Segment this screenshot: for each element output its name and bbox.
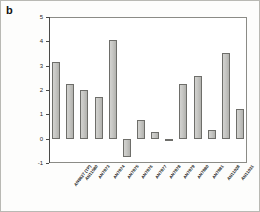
y-tick-mark — [46, 66, 49, 67]
bar — [109, 40, 117, 139]
bar — [208, 130, 216, 139]
bar — [123, 139, 131, 157]
x-axis-label: AN7984 (NRPS) — [259, 164, 260, 192]
y-tick-mark — [46, 17, 49, 18]
y-tick-label: -1 — [23, 160, 43, 166]
y-tick-label: 3 — [23, 63, 43, 69]
y-tick-mark — [46, 41, 49, 42]
bar — [165, 139, 173, 141]
plot-area — [49, 17, 247, 163]
bar — [137, 120, 145, 138]
panel-label: b — [6, 4, 13, 16]
y-tick-mark — [46, 139, 49, 140]
bar — [236, 109, 244, 138]
x-axis-label: AN7874 — [112, 164, 126, 180]
x-axis-label: AN7879 — [182, 164, 196, 180]
y-tick-mark — [46, 114, 49, 115]
y-tick-label: 4 — [23, 38, 43, 44]
bar — [66, 84, 74, 139]
figure-panel: b Relative signal intensity log2 (treate… — [0, 0, 260, 212]
bar — [80, 90, 88, 139]
x-axis-label: AN11028 — [226, 164, 241, 181]
x-axis-label: AN7881 — [211, 164, 225, 180]
y-tick-label: 0 — [23, 136, 43, 142]
bar — [52, 62, 60, 139]
x-axis-label: AN7876 — [140, 164, 154, 180]
y-tick-mark — [46, 90, 49, 91]
y-tick-label: 1 — [23, 111, 43, 117]
y-tick-label: 5 — [23, 14, 43, 20]
x-axis-label: AN7878 — [168, 164, 182, 180]
x-axis-label: AN7873 — [97, 164, 111, 180]
bar-series — [49, 17, 247, 163]
y-tick-label: 2 — [23, 87, 43, 93]
bar — [194, 76, 202, 139]
x-axis-label: AN11031 — [240, 164, 255, 181]
bar — [95, 97, 103, 138]
bar — [222, 53, 230, 139]
x-axis-label: AN7877 — [154, 164, 168, 180]
x-axis-label: AN7880 — [196, 164, 210, 180]
bar — [151, 132, 159, 139]
x-axis-label: AN7875 — [126, 164, 140, 180]
x-axis-labels: AN9827 (TP)AN11580AN7873AN7874AN7875AN78… — [49, 164, 259, 212]
bar — [179, 84, 187, 139]
